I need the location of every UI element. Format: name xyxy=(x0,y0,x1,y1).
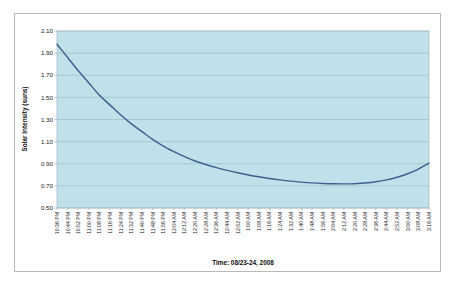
x-axis-tick-label: 2:52 AM xyxy=(394,212,400,231)
y-axis-tick-label: 1.70 xyxy=(41,71,54,78)
x-axis-tick-label: 10:36 PM xyxy=(54,212,60,234)
y-axis-tick-label: 1.30 xyxy=(41,116,54,123)
y-axis-tick-label: 0.70 xyxy=(41,182,54,189)
x-axis-tick-label: 10:52 PM xyxy=(75,212,81,234)
x-axis-tick-label: 11:08 PM xyxy=(96,212,102,234)
x-axis-tick-label: 11:24 PM xyxy=(118,212,124,234)
x-axis-tick-label: 3:16 AM xyxy=(426,212,432,231)
solar-intensity-line-chart: 0.500.700.901.101.301.501.701.902.10 10:… xyxy=(15,14,440,271)
x-axis-tick-label: 3:08 AM xyxy=(415,212,421,231)
x-axis-tick-label: 3:00 AM xyxy=(405,212,411,231)
y-axis-tick-label: 0.50 xyxy=(41,204,54,211)
x-axis-tick-label: 11:48 PM xyxy=(150,212,156,234)
y-axis-tick-label: 1.50 xyxy=(41,94,54,101)
y-axis-tick-label: 0.90 xyxy=(41,160,54,167)
x-axis-tick-label: 2:04 AM xyxy=(330,212,336,231)
x-axis-tick-label: 10:44 PM xyxy=(65,212,71,234)
y-axis-title: Solar Intensity (suns) xyxy=(21,87,29,152)
x-axis-tick-label: 11:56 PM xyxy=(160,212,166,234)
x-axis-title: Time: 08/23-24, 2008 xyxy=(212,259,274,267)
x-axis-tick-label: 1:00 AM xyxy=(245,212,251,231)
chart-card: 0.500.700.901.101.301.501.701.902.10 10:… xyxy=(14,13,441,272)
x-axis-tick-label: 1:40 AM xyxy=(298,212,304,231)
x-axis-tick-label: 11:00 PM xyxy=(86,212,92,234)
y-axis-tick-label: 2.10 xyxy=(41,27,54,34)
x-axis-tick-label: 12:20 AM xyxy=(192,212,198,234)
y-axis-tick-label: 1.10 xyxy=(41,138,54,145)
x-axis-tick-label: 11:16 PM xyxy=(107,212,113,234)
x-axis-tick-label: 1:56 AM xyxy=(320,212,326,231)
x-axis-tick-label: 12:44 AM xyxy=(224,212,230,234)
x-axis-tick-label: 2:44 AM xyxy=(383,212,389,231)
y-axis-tick-label: 1.90 xyxy=(41,49,54,56)
x-axis-tick-label: 1:16 AM xyxy=(266,212,272,231)
x-axis-tick-label: 12:04 AM xyxy=(171,212,177,234)
x-axis-tick-label: 2:36 AM xyxy=(373,212,379,231)
x-axis-tick-label: 1:24 AM xyxy=(277,212,283,231)
x-axis-tick-label: 11:40 PM xyxy=(139,212,145,234)
x-axis-tick-label: 12:52 AM xyxy=(235,212,241,234)
x-axis-tick-label: 12:12 AM xyxy=(181,212,187,234)
x-axis-tick-label: 12:28 AM xyxy=(203,212,209,234)
x-axis-tick-label: 1:48 AM xyxy=(309,212,315,231)
x-axis-tick-label: 1:32 AM xyxy=(288,212,294,231)
x-axis-tick-label: 2:20 AM xyxy=(352,212,358,231)
x-axis-tick-label: 1:08 AM xyxy=(256,212,262,231)
x-axis-tick-label: 2:28 AM xyxy=(362,212,368,231)
x-axis-tick-labels: 10:36 PM10:44 PM10:52 PM11:00 PM11:08 PM… xyxy=(54,208,432,234)
x-axis-tick-label: 11:32 PM xyxy=(128,212,134,234)
x-axis-tick-label: 2:12 AM xyxy=(341,212,347,231)
y-axis-tick-labels: 0.500.700.901.101.301.501.701.902.10 xyxy=(41,27,57,211)
x-axis-tick-label: 12:36 AM xyxy=(213,212,219,234)
